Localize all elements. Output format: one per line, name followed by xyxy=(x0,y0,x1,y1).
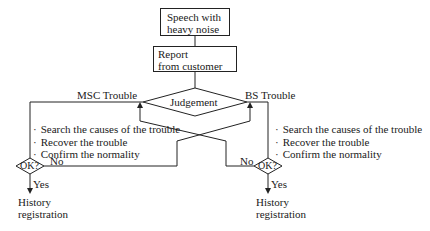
right-step: Confirm the normality xyxy=(275,148,422,161)
right-step: Recover the trouble xyxy=(275,136,422,149)
no-right-label: No xyxy=(240,155,253,167)
history-left-line2: registration xyxy=(18,208,68,220)
left-step: Search the causes of the trouble xyxy=(33,123,180,136)
yes-left-label: Yes xyxy=(33,178,49,190)
left-step: Recover the trouble xyxy=(33,136,180,149)
right-steps-list: Search the causes of the trouble Recover… xyxy=(275,123,422,161)
history-right: History registration xyxy=(256,196,306,220)
bs-trouble-label: BS Trouble xyxy=(245,89,295,101)
ok-left-label: OK? xyxy=(20,160,39,172)
report-line2: from customer xyxy=(158,60,236,72)
history-left: History registration xyxy=(18,196,68,220)
history-left-line1: History xyxy=(18,196,68,208)
judgement-label: Judgement xyxy=(170,96,218,108)
start-line2: heavy noise xyxy=(167,23,229,35)
history-right-line2: registration xyxy=(256,208,306,220)
yes-right-label: Yes xyxy=(271,178,287,190)
history-right-line1: History xyxy=(256,196,306,208)
start-node-box: Speech with heavy noise xyxy=(160,8,230,36)
msc-trouble-label: MSC Trouble xyxy=(77,89,137,101)
no-left-label: No xyxy=(50,155,63,167)
right-step: Search the causes of the trouble xyxy=(275,123,422,136)
start-line1: Speech with xyxy=(167,11,229,23)
ok-right-label: OK? xyxy=(258,160,277,172)
report-line1: Report xyxy=(158,48,236,60)
report-node-box: Report from customer xyxy=(153,46,237,72)
